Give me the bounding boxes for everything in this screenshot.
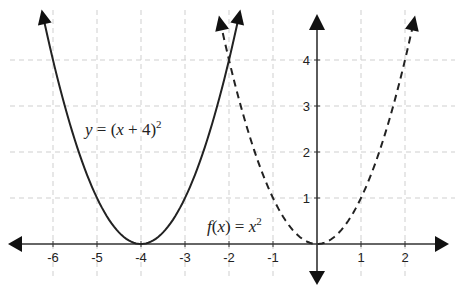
x-tick-label: -3 <box>179 250 191 265</box>
label-base-parabola: f(x) = x2 <box>207 215 262 236</box>
coordinate-plane: -6-5-4-3-2-1121234 y = (x + 4)2 f(x) = x… <box>0 0 460 285</box>
curve-arrow-icon <box>405 15 419 31</box>
x-tick-label: -2 <box>223 250 235 265</box>
y-axis-up-arrow-icon <box>309 14 325 30</box>
y-tick-label: 2 <box>303 145 310 160</box>
curve-arrow-icon <box>215 15 229 31</box>
y-tick-label: 3 <box>303 99 310 114</box>
x-axis-right-arrow-icon <box>435 236 449 252</box>
x-axis-left-arrow-icon <box>8 236 22 252</box>
curve-arrow-icon <box>230 9 244 25</box>
curve-arrow-icon <box>38 9 52 25</box>
y-tick-label: 1 <box>303 191 310 206</box>
x-tick-label: -6 <box>47 250 59 265</box>
x-tick-label: -4 <box>135 250 147 265</box>
x-tick-label: 1 <box>357 250 364 265</box>
x-tick-label: 2 <box>401 250 408 265</box>
x-tick-label: -1 <box>267 250 279 265</box>
x-tick-label: -5 <box>91 250 103 265</box>
y-axis-down-arrow-icon <box>309 271 325 285</box>
y-tick-label: 4 <box>303 53 310 68</box>
label-shifted-parabola: y = (x + 4)2 <box>83 118 162 139</box>
